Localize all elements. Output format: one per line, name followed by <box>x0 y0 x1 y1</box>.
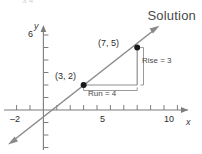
y-axis-ticks <box>43 35 48 148</box>
point-label-3-2: (3, 2) <box>55 72 76 81</box>
y-axis-arrow <box>41 25 47 32</box>
coordinate-plane-svg <box>0 0 202 154</box>
rise-bracket <box>141 48 144 86</box>
x-tick-label-neg2: –2 <box>10 115 20 124</box>
rise-annotation-label: Rise = 3 <box>142 57 172 65</box>
point-label-7-5: (7, 5) <box>98 39 119 48</box>
point-marker-3-2[interactable] <box>81 82 87 88</box>
x-tick-label-5: 5 <box>100 115 105 124</box>
run-annotation-label: Run = 4 <box>88 90 116 98</box>
x-axis-label: x <box>186 118 191 127</box>
math-figure-solution: 3 4 <box>0 0 202 154</box>
x-axis-ticks <box>17 105 178 110</box>
x-axis <box>4 105 188 113</box>
solution-title: Solution <box>147 9 196 22</box>
x-axis-arrow <box>181 107 188 113</box>
y-axis <box>41 25 49 150</box>
y-axis-label: y <box>34 22 39 31</box>
y-tick-label-6: 6 <box>28 30 33 39</box>
x-tick-label-10: 10 <box>164 115 174 124</box>
point-marker-7-5[interactable] <box>134 45 140 51</box>
